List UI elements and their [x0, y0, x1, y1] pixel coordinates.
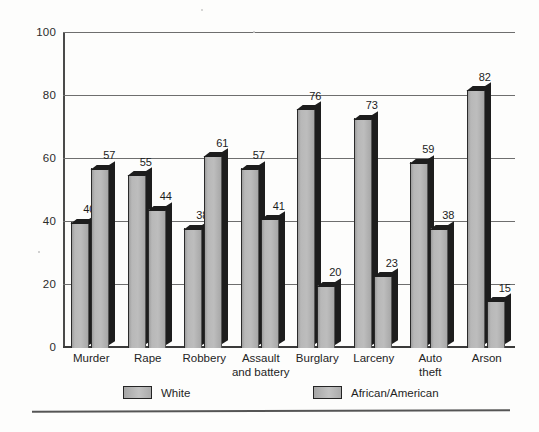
- bar-front-face: [91, 168, 109, 348]
- bar: [410, 162, 428, 348]
- y-tick-label: 60: [12, 153, 56, 165]
- scan-speck: [38, 251, 40, 253]
- y-tick-label: 20: [12, 279, 56, 291]
- chart-page: 020406080100 405755443861574176207323593…: [0, 0, 539, 432]
- bottom-divider-rule: [32, 409, 510, 412]
- bar-front-face: [297, 109, 315, 348]
- x-category-label: Arson: [450, 352, 524, 366]
- legend-label: African/American: [351, 387, 439, 399]
- bar: [184, 228, 202, 348]
- bars-layer: 40575544386157417620732359388215: [63, 33, 515, 348]
- y-tick-label: 40: [12, 216, 56, 228]
- bar: [204, 156, 222, 348]
- legend-entry-african-american: African/American: [313, 386, 439, 399]
- legend-swatch-icon: [313, 386, 342, 399]
- bar: [374, 276, 392, 348]
- bar: [430, 228, 448, 348]
- bar-front-face: [241, 168, 259, 348]
- bar: [241, 168, 259, 348]
- bar-group: 5938: [402, 33, 459, 348]
- bar-front-face: [71, 222, 89, 348]
- bar-value-label: 73: [352, 100, 392, 111]
- bar-group: 5741: [233, 33, 290, 348]
- scan-speck: [201, 9, 203, 11]
- bar-front-face: [148, 209, 166, 348]
- bar: [297, 109, 315, 348]
- bar-side-face: [222, 149, 228, 345]
- y-axis-tick-labels: 020406080100: [8, 33, 56, 348]
- bar-side-face: [505, 294, 511, 345]
- bar-group: 7323: [346, 33, 403, 348]
- bar: [91, 168, 109, 348]
- bar-group: 7620: [289, 33, 346, 348]
- bar-front-face: [128, 175, 146, 348]
- bar-value-label: 55: [126, 157, 166, 168]
- bar: [128, 175, 146, 348]
- bar-value-label: 15: [485, 283, 525, 294]
- y-tick-label: 80: [12, 90, 56, 102]
- bar-front-face: [317, 285, 335, 348]
- bar-value-label: 82: [465, 72, 505, 83]
- bar-front-face: [430, 228, 448, 348]
- bar-group: 8215: [459, 33, 516, 348]
- bar: [467, 90, 485, 348]
- bar-side-face: [279, 212, 285, 345]
- bar-front-face: [354, 118, 372, 348]
- bar-front-face: [487, 301, 505, 348]
- x-category-label-line: and battery: [224, 366, 298, 380]
- bar-group: 4057: [63, 33, 120, 348]
- bar-group: 3861: [176, 33, 233, 348]
- bar-side-face: [166, 202, 172, 344]
- bar-front-face: [374, 276, 392, 348]
- y-tick-label: 0: [12, 342, 56, 354]
- bar-group: 5544: [120, 33, 177, 348]
- bar-side-face: [335, 278, 341, 344]
- legend-label: White: [161, 387, 190, 399]
- bar-front-face: [204, 156, 222, 348]
- x-category-label-line: Arson: [450, 352, 524, 366]
- bar: [354, 118, 372, 348]
- bar-front-face: [261, 219, 279, 348]
- bar-side-face: [109, 162, 115, 345]
- bar-side-face: [448, 221, 454, 344]
- x-axis-category-labels: MurderRapeRobberyAssaultand batteryBurgl…: [63, 352, 515, 388]
- bar-value-label: 59: [408, 144, 448, 155]
- bar-side-face: [392, 269, 398, 345]
- bar: [261, 219, 279, 348]
- bar-front-face: [467, 90, 485, 348]
- chart-legend: White African/American: [63, 386, 515, 406]
- x-category-label-line: theft: [393, 366, 467, 380]
- bar-front-face: [410, 162, 428, 348]
- legend-entry-white: White: [123, 386, 190, 399]
- bar-value-label: 57: [239, 150, 279, 161]
- bar: [71, 222, 89, 348]
- bar: [487, 301, 505, 348]
- scan-speck: [253, 31, 255, 33]
- bar-front-face: [184, 228, 202, 348]
- bar-value-label: 76: [295, 91, 335, 102]
- y-tick-label: 100: [12, 27, 56, 39]
- legend-swatch-icon: [123, 386, 152, 399]
- bar: [148, 209, 166, 348]
- bar: [317, 285, 335, 348]
